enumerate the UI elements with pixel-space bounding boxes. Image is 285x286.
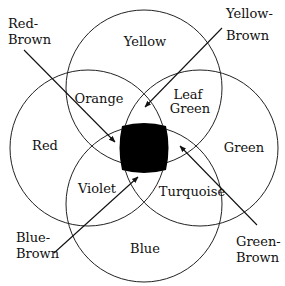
blue-label: Blue xyxy=(130,241,160,256)
yellow-brown-label-line1: Yellow- xyxy=(225,6,273,21)
red-brown-label-line1: Red- xyxy=(8,16,38,31)
leaf-green-label-line1: Leaf xyxy=(174,87,204,102)
green-brown-label-line2: Brown xyxy=(236,250,280,265)
red-brown-label-line2: Brown xyxy=(8,32,52,47)
blue-brown-label-line2: Brown xyxy=(16,246,60,261)
orange-label: Orange xyxy=(74,91,123,106)
turquoise-label: Turquoise xyxy=(159,184,226,199)
yellow-label: Yellow xyxy=(123,34,166,49)
green-label: Green xyxy=(224,140,265,155)
violet-label: Violet xyxy=(77,181,117,196)
center-black-region xyxy=(120,123,169,173)
venn-diagram: Yellow Red Green Blue Orange Leaf Green … xyxy=(0,0,285,286)
blue-brown-label-line1: Blue- xyxy=(16,230,50,245)
leaf-green-label-line2: Green xyxy=(170,101,211,116)
green-brown-label-line1: Green- xyxy=(236,234,281,249)
red-label: Red xyxy=(32,138,58,153)
yellow-brown-label-line2: Brown xyxy=(226,28,270,43)
